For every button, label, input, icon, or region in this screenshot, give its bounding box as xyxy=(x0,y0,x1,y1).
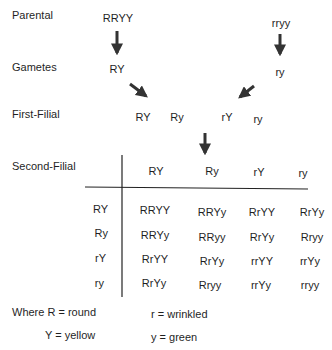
punnett-cell: RrYy xyxy=(200,255,224,268)
punnett-col-header: RY xyxy=(148,165,163,178)
punnett-cell: RRYy xyxy=(141,229,170,242)
parent-left-genotype: RRYY xyxy=(103,12,133,25)
legend-r: r = wrinkled xyxy=(151,308,208,321)
punnett-row-header: RY xyxy=(93,203,108,216)
gamete-left: RY xyxy=(109,63,124,76)
punnett-cell: rrYY xyxy=(251,255,273,268)
legend-R: Where R = round xyxy=(12,306,96,319)
punnett-cell: RRyy xyxy=(199,231,226,244)
punnett-cell: RRYy xyxy=(198,206,227,219)
punnett-col-header: Ry xyxy=(205,165,218,178)
stage-label-gametes: Gametes xyxy=(12,61,57,74)
f1-gamete: RY xyxy=(135,111,150,124)
punnett-row-header: rY xyxy=(95,252,106,265)
punnett-cell: rryy xyxy=(301,279,319,292)
stage-label-parental: Parental xyxy=(12,9,53,22)
punnett-cell: RrYy xyxy=(142,277,166,290)
gamete-right: ry xyxy=(275,66,284,79)
punnett-row-header: Ry xyxy=(95,227,108,240)
legend-y: y = green xyxy=(151,331,197,344)
punnett-cell: Rryy xyxy=(301,231,324,244)
arrow-diagonal-icon xyxy=(130,84,146,96)
diagram-lines xyxy=(0,0,332,350)
punnett-cell: RrYY xyxy=(249,206,275,219)
punnett-cell: rrYy xyxy=(300,255,320,268)
f1-gamete: ry xyxy=(253,113,262,126)
punnett-cell: RrYy xyxy=(250,231,274,244)
punnett-horizontal-line xyxy=(85,187,308,189)
stage-label-first-filial: First-Filial xyxy=(12,108,60,121)
punnett-cell: RrYy xyxy=(300,206,324,219)
punnett-row-header: ry xyxy=(95,277,104,290)
punnett-col-header: ry xyxy=(298,167,307,180)
f1-gamete: Ry xyxy=(170,111,183,124)
punnett-cell: rrYy xyxy=(251,279,271,292)
legend-Y: Y = yellow xyxy=(45,329,95,342)
punnett-cell: RrYY xyxy=(142,253,168,266)
punnett-col-header: rY xyxy=(254,166,265,179)
stage-label-second-filial: Second-Filial xyxy=(12,160,76,173)
punnett-cell: RRYY xyxy=(140,204,170,217)
parent-right-genotype: rryy xyxy=(272,17,290,30)
punnett-cell: Rryy xyxy=(199,279,222,292)
f1-gamete: rY xyxy=(222,111,233,124)
arrow-diagonal-icon xyxy=(240,86,254,97)
